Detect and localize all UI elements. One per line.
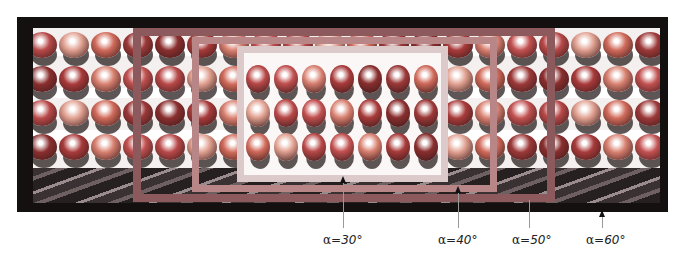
alpha-symbol: α: [512, 233, 520, 247]
sphere: [603, 66, 633, 92]
sphere: [33, 100, 57, 126]
angle-value: =60°: [594, 233, 625, 247]
leader-line-alpha-40: [458, 193, 459, 228]
sphere: [59, 100, 89, 126]
sphere: [635, 32, 660, 58]
sphere: [59, 134, 89, 160]
sphere: [91, 134, 121, 160]
label-alpha-40: α=40°: [438, 233, 477, 247]
alpha-symbol: α: [438, 233, 446, 247]
label-alpha-50: α=50°: [512, 233, 551, 247]
sphere: [571, 100, 601, 126]
sphere: [91, 32, 121, 58]
sphere: [635, 134, 660, 160]
marker-alpha-30: [340, 176, 346, 183]
sphere: [33, 134, 57, 160]
label-alpha-30: α=30°: [323, 233, 362, 247]
leader-line-alpha-50: [529, 200, 530, 228]
leader-line-alpha-30: [343, 183, 344, 228]
angle-value: =50°: [520, 233, 551, 247]
marker-alpha-40: [455, 186, 461, 193]
label-alpha-60: α=60°: [586, 233, 625, 247]
sphere: [635, 100, 660, 126]
frame-alpha-30: [237, 46, 448, 182]
sphere: [91, 100, 121, 126]
sphere: [91, 66, 121, 92]
marker-alpha-60: [599, 210, 605, 217]
sphere: [603, 32, 633, 58]
leader-line-alpha-60: [602, 217, 603, 228]
sphere: [635, 66, 660, 92]
alpha-symbol: α: [586, 233, 594, 247]
sphere: [571, 134, 601, 160]
sphere: [571, 32, 601, 58]
angle-value: =30°: [331, 233, 362, 247]
sphere: [59, 32, 89, 58]
sphere: [603, 100, 633, 126]
alpha-symbol: α: [323, 233, 331, 247]
sphere: [571, 66, 601, 92]
sphere: [59, 66, 89, 92]
sphere: [603, 134, 633, 160]
angle-value: =40°: [446, 233, 477, 247]
